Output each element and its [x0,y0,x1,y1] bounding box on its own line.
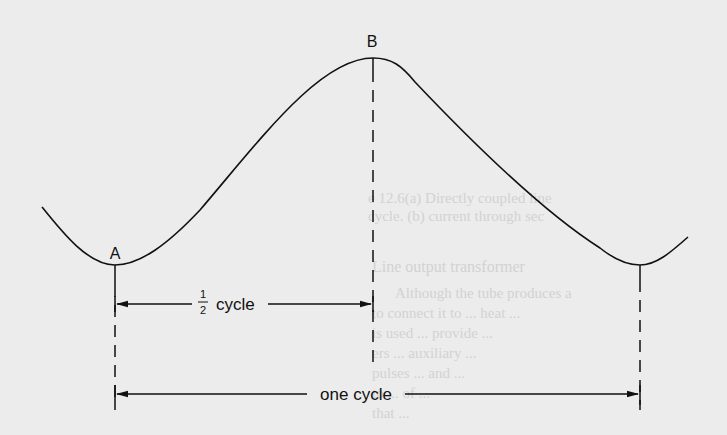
half-cycle-dimension: 1 2 cycle [115,288,373,316]
half-fraction-denominator: 2 [200,304,206,316]
half-fraction-numerator: 1 [200,288,206,300]
half-cycle-label: cycle [216,295,255,314]
waveform-diagram: 1 2 cycle one cycle A B [0,0,727,435]
one-cycle-dimension: one cycle [115,385,640,405]
point-b-label: B [367,33,378,50]
one-cycle-label: one cycle [320,385,392,404]
waveform-curve [42,58,688,265]
point-a-label: A [110,245,121,262]
